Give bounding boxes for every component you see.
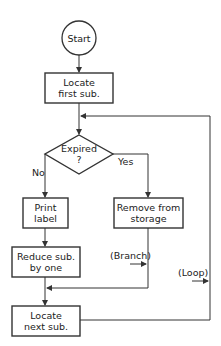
print-label-node: Print label — [23, 198, 68, 228]
print-label-line1: Print — [35, 202, 57, 213]
remove-line1: Remove from — [117, 202, 181, 213]
locate-first-line2: first sub. — [58, 88, 100, 99]
locate-next-line2: next sub. — [24, 321, 68, 332]
edge-label-loop: (Loop) — [178, 267, 208, 278]
expired-decision-node: Expired ? — [50, 139, 108, 169]
expired-line2: ? — [76, 154, 81, 165]
edge-label-yes: Yes — [118, 156, 133, 167]
locate-first-line1: Locate — [63, 77, 95, 88]
start-label: Start — [67, 33, 90, 44]
edge-label-branch: (Branch) — [110, 250, 151, 261]
remove-line2: storage — [130, 213, 166, 224]
reduce-line1: Reduce sub. — [17, 251, 75, 262]
locate-next-node: Locate next sub. — [12, 306, 80, 336]
expired-line1: Expired — [61, 143, 97, 154]
reduce-line2: by one — [30, 262, 62, 273]
locate-first-node: Locate first sub. — [45, 73, 113, 103]
edge-label-no: No — [32, 167, 45, 178]
reduce-node: Reduce sub. by one — [12, 247, 80, 277]
remove-node: Remove from storage — [114, 198, 183, 228]
locate-next-line1: Locate — [30, 310, 62, 321]
print-label-line2: label — [34, 213, 57, 224]
start-node: Start — [62, 21, 96, 55]
